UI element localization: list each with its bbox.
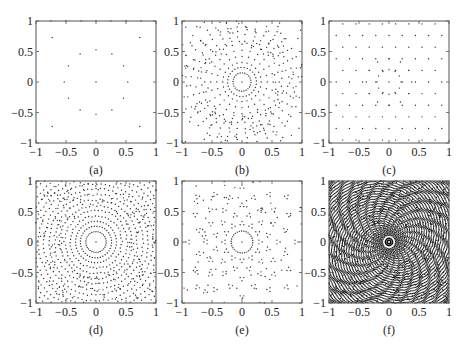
y-tick-label: 1 bbox=[296, 175, 326, 187]
x-tick-label: 0.5 bbox=[404, 306, 434, 318]
y-tick-label: −0.5 bbox=[296, 267, 326, 279]
x-tick-label: −1 bbox=[314, 306, 344, 318]
x-tick-label: 1 bbox=[434, 306, 464, 318]
x-tick-label: 0 bbox=[374, 306, 404, 318]
y-tick-label: 0 bbox=[296, 236, 326, 248]
subplot-caption: (f) bbox=[369, 324, 409, 336]
y-tick-label: 0.5 bbox=[296, 206, 326, 218]
x-tick-label: −0.5 bbox=[344, 306, 374, 318]
plot-area-f bbox=[0, 0, 469, 351]
data-points bbox=[328, 180, 449, 303]
